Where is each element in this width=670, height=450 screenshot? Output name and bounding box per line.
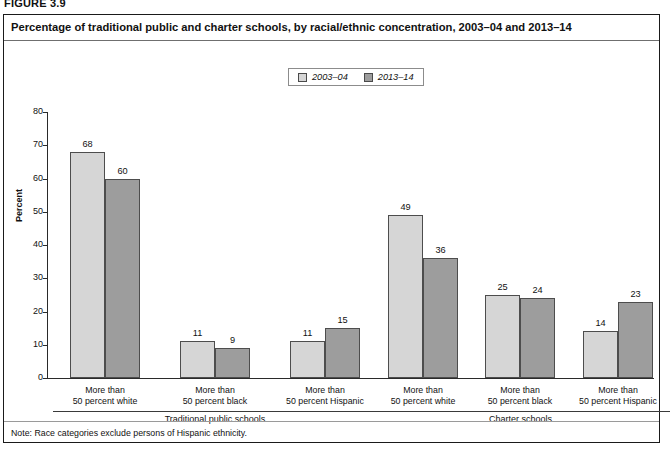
bar-value-label: 25: [483, 282, 523, 292]
bar-3-1[interactable]: [423, 258, 458, 378]
y-axis-tick: [43, 145, 48, 146]
bar-5-0[interactable]: [583, 331, 618, 378]
x-axis-category-label: More than50 percent black: [468, 385, 572, 407]
bar-4-1[interactable]: [520, 298, 555, 378]
bar-4-0[interactable]: [485, 295, 520, 378]
y-axis-tick-label: 20: [17, 306, 43, 316]
bar-1-0[interactable]: [180, 341, 215, 378]
bar-value-label: 24: [518, 285, 558, 295]
x-axis-category-line-1: 50 percent Hispanic: [566, 396, 670, 407]
y-axis-tick: [43, 179, 48, 180]
x-axis-category-label: More than50 percent white: [371, 385, 475, 407]
y-axis-tick-label: 70: [17, 139, 43, 149]
bar-value-label: 68: [68, 139, 108, 149]
bar-value-label: 60: [103, 166, 143, 176]
group-bracket-0: [53, 411, 377, 412]
bar-value-label: 23: [616, 289, 656, 299]
y-axis-tick: [43, 212, 48, 213]
y-axis-tick-label: 0: [17, 372, 43, 382]
y-axis-tick-label: 40: [17, 239, 43, 249]
group-label-1: Charter schools: [371, 414, 670, 424]
group-bracket-1: [371, 411, 670, 412]
bar-value-label: 9: [213, 335, 253, 345]
x-axis-category-label: More than50 percent Hispanic: [566, 385, 670, 407]
bar-value-label: 15: [323, 315, 363, 325]
x-axis-category-line-0: More than: [566, 385, 670, 396]
x-axis-category-label: More than50 percent white: [53, 385, 157, 407]
y-axis-tick-label: 30: [17, 272, 43, 282]
y-axis-tick-label: 10: [17, 339, 43, 349]
figure-note: Note: Race categories exclude persons of…: [11, 428, 247, 438]
x-axis-category-line-1: 50 percent white: [53, 396, 157, 407]
x-axis-category-line-1: 50 percent white: [371, 396, 475, 407]
y-axis-tick-label: 80: [17, 106, 43, 116]
x-axis-category-line-1: 50 percent Hispanic: [273, 396, 377, 407]
bar-2-0[interactable]: [290, 341, 325, 378]
bar-value-label: 11: [288, 328, 328, 338]
bar-3-0[interactable]: [388, 215, 423, 378]
x-axis-category-line-0: More than: [273, 385, 377, 396]
y-axis-tick: [43, 245, 48, 246]
bar-0-1[interactable]: [105, 179, 140, 379]
x-axis-category-label: More than50 percent Hispanic: [273, 385, 377, 407]
bar-value-label: 36: [421, 245, 461, 255]
bar-5-1[interactable]: [618, 302, 653, 378]
note-divider: [4, 421, 659, 422]
x-axis-category-line-0: More than: [468, 385, 572, 396]
bar-value-label: 14: [581, 318, 621, 328]
bar-1-1[interactable]: [215, 348, 250, 378]
group-label-0: Traditional public schools: [53, 414, 377, 424]
y-axis-tick: [43, 278, 48, 279]
x-axis-category-line-0: More than: [371, 385, 475, 396]
x-axis-line: [47, 378, 654, 379]
x-axis-category-label: More than50 percent black: [163, 385, 267, 407]
x-axis-category-line-1: 50 percent black: [468, 396, 572, 407]
y-axis-tick: [43, 112, 48, 113]
x-axis-category-line-1: 50 percent black: [163, 396, 267, 407]
y-axis-tick: [43, 378, 48, 379]
bar-2-1[interactable]: [325, 328, 360, 378]
y-axis-tick-label: 60: [17, 173, 43, 183]
y-axis-tick: [43, 345, 48, 346]
bar-value-label: 49: [386, 202, 426, 212]
y-axis-tick-label: 50: [17, 206, 43, 216]
x-axis-category-line-0: More than: [53, 385, 157, 396]
y-axis-tick: [43, 312, 48, 313]
x-axis-category-line-0: More than: [163, 385, 267, 396]
bar-0-0[interactable]: [70, 152, 105, 378]
bar-value-label: 11: [178, 328, 218, 338]
